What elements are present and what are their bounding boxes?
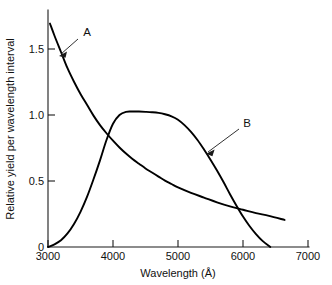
y-axis-ticks	[48, 49, 55, 181]
series-label-a: A	[83, 26, 91, 38]
annotation-a: A	[59, 26, 91, 58]
y-tick-label-1.5: 1.5	[29, 43, 44, 55]
x-tick-label-4000: 4000	[101, 250, 125, 262]
y-axis-title: Relative yield per wavelength interval	[4, 38, 16, 220]
x-tick-label-3000: 3000	[36, 250, 60, 262]
annotation-b: B	[206, 117, 251, 156]
curve-series-b	[48, 112, 270, 247]
chart-plot: 1.5 1.0 0.5 0 3000 4000 5000 6000 7000 W…	[0, 0, 332, 285]
series-label-b: B	[243, 117, 251, 129]
x-tick-label-5000: 5000	[166, 250, 190, 262]
y-tick-label-1.0: 1.0	[29, 109, 44, 121]
x-tick-label-7000: 7000	[296, 250, 320, 262]
leader-line-a	[61, 39, 78, 54]
x-tick-label-6000: 6000	[231, 250, 255, 262]
figure-container: 1.5 1.0 0.5 0 3000 4000 5000 6000 7000 W…	[0, 0, 332, 285]
leader-line-b	[208, 129, 239, 152]
x-axis-title: Wavelength (Å)	[140, 267, 215, 279]
y-tick-label-0.5: 0.5	[29, 175, 44, 187]
